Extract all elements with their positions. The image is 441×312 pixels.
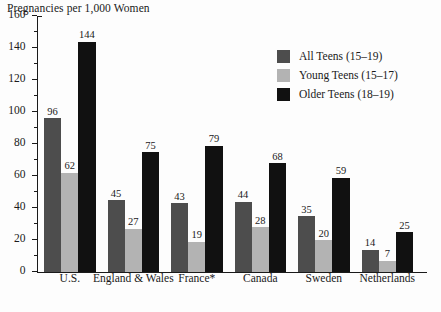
bar-value-label: 79 [209,134,220,145]
legend-swatch-icon [277,88,290,101]
chart-legend: All Teens (15–19)Young Teens (15–17)Olde… [277,47,398,104]
y-tick-minor [34,255,38,256]
x-axis-category-label: France* [178,273,215,285]
legend-item-older-teens: Older Teens (18–19) [277,85,398,104]
y-tick-major: 20 [32,239,38,240]
bar: 45 [108,200,125,272]
y-tick-label: 20 [14,233,26,245]
bar: 7 [379,261,396,272]
bar-value-label: 35 [301,205,312,216]
x-axis-category-label: Netherlands [360,273,416,285]
bar: 75 [142,152,159,272]
bar: 19 [188,242,205,272]
bar-group: 452775 [108,16,160,272]
legend-label: All Teens (15–19) [299,51,382,63]
y-tick-minor [34,223,38,224]
bar-chart: Pregnancies per 1,000 Women 020406080100… [0,0,441,312]
bar: 14 [362,250,379,272]
bar: 20 [315,240,332,272]
y-tick-major: 80 [32,143,38,144]
bar: 25 [396,232,413,272]
legend-swatch-icon [277,50,290,63]
bar: 62 [61,173,78,272]
bar-value-label: 68 [272,152,283,163]
bar-value-label: 96 [47,107,58,118]
bar-value-label: 45 [111,189,122,200]
bar-value-label: 28 [255,216,266,227]
legend-label: Older Teens (18–19) [299,89,394,101]
y-tick-minor [34,159,38,160]
bar-value-label: 25 [399,221,410,232]
x-axis-category-label: Canada [243,273,277,285]
x-axis-category-label: Sweden [306,273,342,285]
y-tick-label: 40 [14,201,26,213]
bar: 27 [125,229,142,272]
y-tick-major: 40 [32,207,38,208]
y-tick-minor [34,63,38,64]
y-tick-major: 140 [32,47,38,48]
bar-value-label: 75 [145,141,156,152]
y-tick-major: 100 [32,111,38,112]
bar-value-label: 19 [192,230,203,241]
y-tick-major: 0 [32,271,38,272]
y-tick-label: 100 [8,105,25,117]
bar: 144 [78,42,95,272]
y-tick-label: 60 [14,169,26,181]
bar-value-label: 62 [65,161,76,172]
legend-swatch-icon [277,69,290,82]
bar-value-label: 14 [365,238,376,249]
bar: 96 [44,118,61,272]
bar-value-label: 7 [385,249,390,260]
y-tick-label: 140 [8,41,25,53]
x-axis-category-label: England & Wales [93,273,174,285]
y-tick-minor [34,127,38,128]
bar: 79 [205,146,222,272]
y-tick-label: 80 [14,137,26,149]
bar: 43 [171,203,188,272]
bar-value-label: 20 [319,229,330,240]
legend-item-young-teens: Young Teens (15–17) [277,66,398,85]
y-tick-label: 160 [8,9,25,21]
chart-title: Pregnancies per 1,000 Women [7,2,150,14]
legend-item-all-teens: All Teens (15–19) [277,47,398,66]
bar-value-label: 27 [128,217,139,228]
bar: 28 [252,227,269,272]
bar-value-label: 59 [336,166,347,177]
bar-value-label: 144 [79,30,95,41]
bar-value-label: 43 [174,192,185,203]
bar-group: 431979 [171,16,223,272]
y-tick-label: 120 [8,73,25,85]
y-tick-minor [34,31,38,32]
legend-label: Young Teens (15–17) [299,70,398,82]
bar: 59 [332,178,349,272]
bar: 44 [235,202,252,272]
y-tick-label: 0 [20,265,26,277]
bar-group: 9662144 [44,16,96,272]
x-axis-category-label: U.S. [60,273,80,285]
y-tick-major: 60 [32,175,38,176]
y-tick-minor [34,191,38,192]
bar: 35 [298,216,315,272]
y-tick-major: 160 [32,15,38,16]
bar-value-label: 44 [238,190,249,201]
y-tick-minor [34,95,38,96]
bar: 68 [269,163,286,272]
y-tick-major: 120 [32,79,38,80]
